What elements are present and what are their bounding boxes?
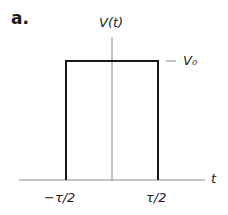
tick-label-pos-tau-half: τ/2 xyxy=(146,190,166,205)
v0-label: V₀ xyxy=(183,53,197,68)
y-axis-label: V(t) xyxy=(99,15,123,30)
pulse-diagram xyxy=(0,0,228,215)
tick-label-neg-tau-half: −τ/2 xyxy=(44,190,75,205)
x-axis-label: t xyxy=(211,171,216,186)
rectangular-pulse-figure: a. V(t) V₀ t −τ/2 τ/2 xyxy=(0,0,228,215)
panel-label: a. xyxy=(11,8,29,28)
